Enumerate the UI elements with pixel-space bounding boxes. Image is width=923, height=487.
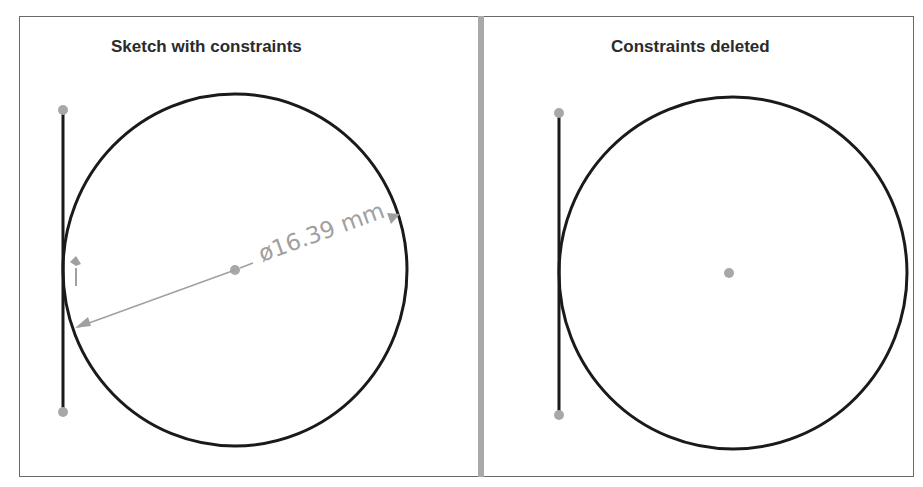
sketch-canvas: ø16.39 mm	[0, 0, 923, 487]
dimension-arrow-start	[75, 317, 91, 328]
diameter-dimension[interactable]: ø16.39 mm	[75, 197, 400, 328]
left-sketch: ø16.39 mm	[58, 94, 407, 446]
left-line-bottom-endpoint[interactable]	[58, 407, 68, 417]
left-line-top-endpoint[interactable]	[58, 105, 68, 115]
right-line-bottom-endpoint[interactable]	[554, 410, 564, 420]
right-sketch	[554, 97, 907, 449]
tangent-constraint-icon[interactable]	[70, 256, 81, 286]
right-line-top-endpoint[interactable]	[554, 108, 564, 118]
diameter-dimension-label: ø16.39 mm	[255, 197, 388, 267]
right-center-point[interactable]	[724, 268, 734, 278]
